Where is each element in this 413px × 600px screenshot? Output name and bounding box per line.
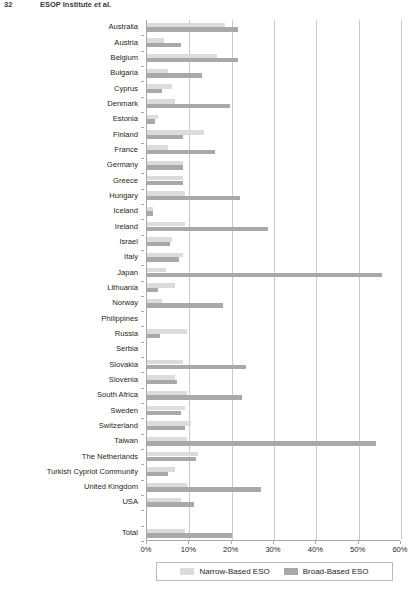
bar-broad-based-eso bbox=[147, 196, 240, 200]
category-label: Total bbox=[122, 529, 138, 537]
category-axis-tick bbox=[141, 388, 144, 389]
category-axis-tick bbox=[141, 311, 144, 312]
bar-broad-based-eso bbox=[147, 43, 181, 47]
bar-broad-based-eso bbox=[147, 365, 246, 369]
value-axis-tick-label: 50% bbox=[350, 545, 365, 554]
category-label: Turkish Cypriot Community bbox=[47, 468, 138, 476]
category-label: Australia bbox=[108, 23, 138, 31]
running-head: 32 ESOP Institute et al. bbox=[0, 0, 413, 14]
category-label: Japan bbox=[117, 269, 138, 277]
category-label: Israel bbox=[119, 238, 138, 246]
bar-broad-based-eso bbox=[147, 288, 158, 292]
category-axis-tick bbox=[141, 204, 144, 205]
bar-broad-based-eso bbox=[147, 165, 183, 169]
value-axis: 0%10%20%30%40%50%60% bbox=[146, 541, 400, 559]
category-label: Finland bbox=[113, 131, 138, 139]
value-axis-tick-label: 20% bbox=[223, 545, 238, 554]
category-label: Ireland bbox=[115, 223, 138, 231]
category-axis-tick bbox=[141, 265, 144, 266]
bar-broad-based-eso bbox=[147, 242, 170, 246]
bar-broad-based-eso bbox=[147, 227, 268, 231]
grid-line bbox=[316, 20, 317, 540]
category-label: Austria bbox=[114, 39, 138, 47]
category-label: Germany bbox=[107, 161, 138, 169]
bar-broad-based-eso bbox=[147, 472, 168, 476]
value-axis-tick bbox=[400, 541, 401, 544]
category-axis-tick bbox=[141, 418, 144, 419]
bar-broad-based-eso bbox=[147, 411, 181, 415]
bar-chart: AustraliaAustriaBelgiumBulgariaCyprusDen… bbox=[0, 16, 413, 556]
plot-area bbox=[146, 20, 400, 541]
category-label: Hungary bbox=[109, 192, 138, 200]
category-axis-tick bbox=[141, 127, 144, 128]
value-axis-tick-label: 40% bbox=[308, 545, 323, 554]
category-axis-tick bbox=[141, 434, 144, 435]
value-axis-tick bbox=[315, 541, 316, 544]
category-axis-tick bbox=[141, 372, 144, 373]
category-axis-tick bbox=[141, 112, 144, 113]
category-axis-tick bbox=[141, 480, 144, 481]
legend-label-broad: Broad-Based ESO bbox=[303, 567, 369, 576]
grid-line bbox=[359, 20, 360, 540]
bar-broad-based-eso bbox=[147, 487, 261, 491]
grid-line bbox=[232, 20, 233, 540]
category-axis-tick bbox=[141, 357, 144, 358]
category-axis-tick bbox=[141, 173, 144, 174]
category-axis-labels: AustraliaAustriaBelgiumBulgariaCyprusDen… bbox=[0, 20, 144, 541]
legend-item-narrow: Narrow-Based ESO bbox=[180, 567, 269, 576]
value-axis-tick-label: 60% bbox=[392, 545, 407, 554]
value-axis-tick bbox=[188, 541, 189, 544]
legend-item-broad: Broad-Based ESO bbox=[284, 567, 369, 576]
bar-broad-based-eso bbox=[147, 150, 215, 154]
bar-broad-based-eso bbox=[147, 502, 194, 506]
bar-broad-based-eso bbox=[147, 89, 162, 93]
page-folio: 32 bbox=[4, 0, 12, 9]
category-label: The Netherlands bbox=[82, 453, 138, 461]
category-label: Bulgaria bbox=[110, 69, 138, 77]
category-label: Cyprus bbox=[114, 85, 138, 93]
category-axis-tick bbox=[141, 342, 144, 343]
category-label: Taiwan bbox=[114, 437, 138, 445]
category-axis-tick bbox=[141, 143, 144, 144]
category-axis-tick bbox=[141, 81, 144, 82]
category-label: Belgium bbox=[111, 54, 138, 62]
category-axis-tick bbox=[141, 66, 144, 67]
category-label: Greece bbox=[113, 177, 138, 185]
category-axis-tick bbox=[141, 526, 144, 527]
category-axis-tick bbox=[141, 541, 144, 542]
grid-line bbox=[401, 20, 402, 540]
chart-legend: Narrow-Based ESO Broad-Based ESO bbox=[156, 562, 393, 581]
bar-broad-based-eso bbox=[147, 119, 155, 123]
bar-broad-based-eso bbox=[147, 380, 177, 384]
value-axis-tick-label: 10% bbox=[181, 545, 196, 554]
bar-broad-based-eso bbox=[147, 73, 202, 77]
bar-broad-based-eso bbox=[147, 27, 238, 31]
category-axis-tick bbox=[141, 35, 144, 36]
bar-broad-based-eso bbox=[147, 273, 382, 277]
value-axis-tick-label: 0% bbox=[141, 545, 152, 554]
category-axis-tick bbox=[141, 250, 144, 251]
category-label: Italy bbox=[124, 253, 138, 261]
category-label: France bbox=[114, 146, 138, 154]
category-label: Sweden bbox=[111, 407, 138, 415]
value-axis-tick bbox=[231, 541, 232, 544]
bar-broad-based-eso bbox=[147, 303, 223, 307]
category-axis-tick bbox=[141, 449, 144, 450]
chart-page: 32 ESOP Institute et al. AustraliaAustri… bbox=[0, 0, 413, 600]
bar-broad-based-eso bbox=[147, 181, 183, 185]
legend-swatch-broad bbox=[284, 568, 298, 575]
grid-line bbox=[274, 20, 275, 540]
category-axis-tick bbox=[141, 235, 144, 236]
category-label: Iceland bbox=[114, 207, 139, 215]
bar-broad-based-eso bbox=[147, 426, 185, 430]
category-axis-tick bbox=[141, 403, 144, 404]
category-axis-tick bbox=[141, 189, 144, 190]
bar-broad-based-eso bbox=[147, 334, 160, 338]
category-label: Serbia bbox=[116, 345, 138, 353]
bar-broad-based-eso bbox=[147, 395, 242, 399]
category-label: Russia bbox=[115, 330, 138, 338]
value-axis-tick bbox=[358, 541, 359, 544]
category-axis-tick bbox=[141, 510, 144, 511]
category-label: Denmark bbox=[107, 100, 138, 108]
category-label: Slovakia bbox=[109, 361, 138, 369]
